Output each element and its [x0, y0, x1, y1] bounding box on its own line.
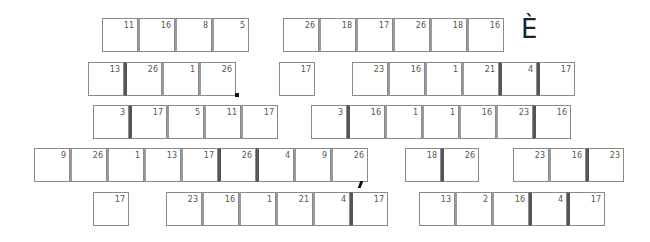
letter-cell[interactable]: 4 [256, 148, 294, 182]
letter-cell[interactable]: 17 [129, 105, 167, 139]
letter-cell[interactable]: 9 [34, 148, 70, 182]
cell-number: 23 [535, 151, 545, 160]
cell-number: 1 [135, 151, 140, 160]
cell-number: 16 [572, 151, 582, 160]
letter-cell[interactable]: 16 [533, 105, 571, 139]
word-group: 231623 [513, 148, 624, 182]
letter-cell[interactable]: 23 [513, 148, 549, 182]
cell-number: 16 [482, 108, 492, 117]
letter-cell[interactable]: 21 [276, 192, 313, 226]
cell-number: 26 [148, 65, 158, 74]
cell-number: 16 [557, 108, 567, 117]
cell-number: 11 [124, 21, 134, 30]
cell-number: 17 [561, 65, 571, 74]
letter-cell[interactable]: 26 [70, 148, 107, 182]
letter-cell[interactable]: 17 [181, 148, 218, 182]
letter-cell[interactable]: 1 [162, 62, 199, 96]
cell-number: 17 [591, 195, 601, 204]
letter-cell[interactable]: 4 [499, 62, 537, 96]
letter-cell[interactable]: 26 [283, 18, 319, 52]
letter-cell[interactable]: 2 [455, 192, 492, 226]
word-group: 17 [279, 62, 315, 96]
cell-number: 5 [195, 108, 200, 117]
letter-cell[interactable]: 13 [88, 62, 124, 96]
cell-number: 16 [225, 195, 235, 204]
cell-number: 26 [242, 151, 252, 160]
cell-number: 8 [203, 21, 208, 30]
letter-cell[interactable]: 16 [202, 192, 239, 226]
letter-cell[interactable]: 17 [279, 62, 315, 96]
letter-cell[interactable]: 16 [347, 105, 385, 139]
letter-cell[interactable]: 1 [425, 62, 462, 96]
letter-cell[interactable]: 23 [352, 62, 388, 96]
letter-cell[interactable]: 26 [441, 148, 479, 182]
letter-cell[interactable]: 4 [529, 192, 567, 226]
word-group: 261817261816 [283, 18, 504, 52]
cell-number: 13 [110, 65, 120, 74]
cell-number: 4 [285, 151, 290, 160]
letter-cell[interactable]: 17 [567, 192, 605, 226]
letter-cell[interactable]: 11 [102, 18, 138, 52]
cell-number: 26 [93, 151, 103, 160]
letter-cell[interactable]: 8 [175, 18, 212, 52]
letter-cell[interactable]: 26 [331, 148, 368, 182]
letter-cell[interactable]: 3 [311, 105, 347, 139]
letter-cell[interactable]: 5 [167, 105, 204, 139]
cell-number: 3 [120, 108, 125, 117]
cell-number: 1 [453, 65, 458, 74]
letter-cell[interactable]: 26 [124, 62, 162, 96]
cell-number: 17 [115, 195, 125, 204]
cell-number: 23 [374, 65, 384, 74]
letter-cell[interactable]: 11 [204, 105, 241, 139]
letter-cell[interactable]: 16 [138, 18, 175, 52]
cell-number: 16 [411, 65, 421, 74]
letter-cell[interactable]: 17 [93, 192, 129, 226]
letter-cell[interactable]: 26 [218, 148, 256, 182]
letter-cell[interactable]: 23 [166, 192, 202, 226]
cell-number: 1 [190, 65, 195, 74]
letter-cell[interactable]: 26 [199, 62, 236, 96]
letter-cell[interactable]: 18 [405, 148, 441, 182]
letter-cell[interactable]: 16 [467, 18, 504, 52]
cell-number: 17 [379, 21, 389, 30]
cell-number: 13 [441, 195, 451, 204]
letter-cell[interactable]: 16 [459, 105, 496, 139]
letter-cell[interactable]: 23 [496, 105, 533, 139]
letter-cell[interactable]: 21 [462, 62, 499, 96]
word-group: 1326126 [88, 62, 236, 96]
cell-number: 17 [204, 151, 214, 160]
cell-number: 26 [354, 151, 364, 160]
word-group: 2316121417 [352, 62, 575, 96]
letter-cell[interactable]: 13 [144, 148, 181, 182]
letter-cell[interactable]: 1 [385, 105, 422, 139]
letter-cell[interactable]: 1 [239, 192, 276, 226]
letter-cell[interactable]: 18 [319, 18, 356, 52]
cell-number: 5 [240, 21, 245, 30]
letter-cell[interactable]: 5 [212, 18, 249, 52]
letter-cell[interactable]: 16 [492, 192, 529, 226]
letter-cell[interactable]: 9 [294, 148, 331, 182]
letter-cell[interactable]: 4 [313, 192, 350, 226]
cell-number: 26 [222, 65, 232, 74]
letter-cell[interactable]: 17 [350, 192, 388, 226]
letter-cell[interactable]: 1 [107, 148, 144, 182]
letter-cell[interactable]: 13 [419, 192, 455, 226]
cell-number: 1 [413, 108, 418, 117]
letter-cell[interactable]: 17 [356, 18, 393, 52]
letter-cell[interactable]: 17 [241, 105, 278, 139]
cell-number: 16 [371, 108, 381, 117]
cell-number: 11 [227, 108, 237, 117]
letter-cell[interactable]: 23 [586, 148, 624, 182]
word-group: 13216417 [419, 192, 605, 226]
letter-cell[interactable]: 3 [93, 105, 129, 139]
letter-cell[interactable]: 16 [549, 148, 586, 182]
letter-cell[interactable]: 17 [537, 62, 575, 96]
letter-cell[interactable]: 18 [430, 18, 467, 52]
word-group: 1826 [405, 148, 479, 182]
letter-cell[interactable]: 16 [388, 62, 425, 96]
cell-number: 2 [483, 195, 488, 204]
cell-number: 23 [188, 195, 198, 204]
letter-cell[interactable]: 1 [422, 105, 459, 139]
revealed-letter: È [521, 14, 537, 44]
letter-cell[interactable]: 26 [393, 18, 430, 52]
